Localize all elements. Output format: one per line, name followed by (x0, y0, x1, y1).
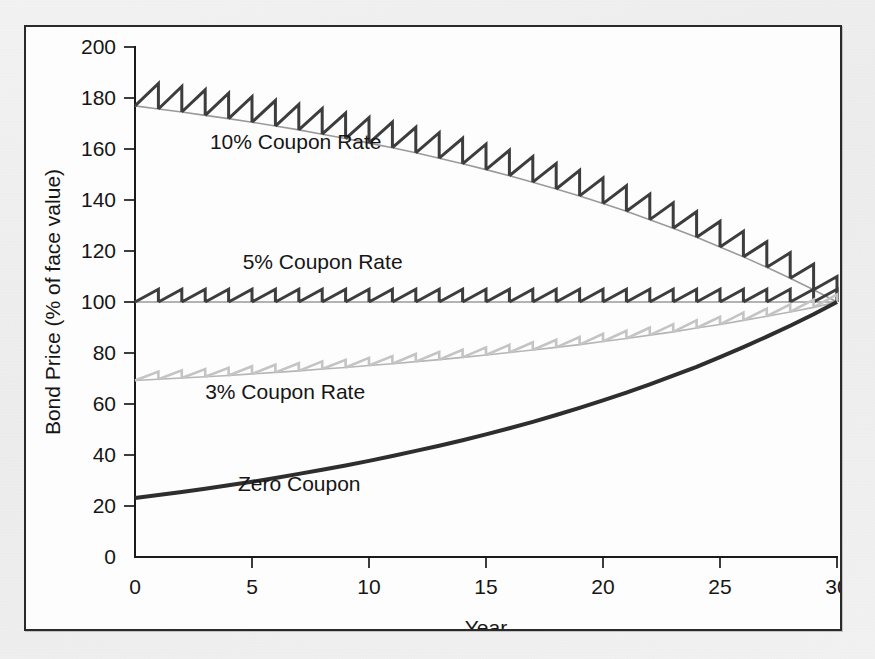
x-tick-label: 10 (357, 575, 380, 598)
x-tick-label: 20 (591, 575, 614, 598)
y-tick-label: 160 (81, 137, 116, 160)
y-tick-label: 140 (81, 188, 116, 211)
bond-price-chart: 020406080100120140160180200 051015202530… (26, 27, 840, 629)
series-trend-line (135, 302, 837, 381)
y-axis-ticks: 020406080100120140160180200 (81, 35, 135, 568)
y-tick-label: 60 (93, 392, 116, 415)
series-annotation-label: 5% Coupon Rate (243, 250, 403, 273)
series-annotation-label: 3% Coupon Rate (205, 380, 365, 403)
x-tick-label: 30 (825, 575, 840, 598)
figure-page: 020406080100120140160180200 051015202530… (0, 0, 875, 659)
series-annotation-label: 10% Coupon Rate (210, 130, 382, 153)
series-sawtooth-line (135, 294, 837, 380)
x-tick-label: 15 (474, 575, 497, 598)
series-annotations: 10% Coupon Rate5% Coupon Rate3% Coupon R… (205, 130, 402, 495)
series-3pct (135, 294, 837, 380)
x-axis-title: Year (465, 616, 507, 629)
y-tick-label: 120 (81, 239, 116, 262)
x-tick-label: 25 (708, 575, 731, 598)
y-tick-label: 100 (81, 290, 116, 313)
chart-surface: 020406080100120140160180200 051015202530… (26, 27, 840, 629)
x-tick-label: 5 (246, 575, 258, 598)
series-annotation-label: Zero Coupon (238, 472, 361, 495)
y-tick-label: 40 (93, 443, 116, 466)
y-tick-label: 80 (93, 341, 116, 364)
y-tick-label: 200 (81, 35, 116, 58)
y-tick-label: 20 (93, 494, 116, 517)
series-sawtooth-line (135, 289, 837, 302)
x-tick-label: 0 (129, 575, 141, 598)
y-tick-label: 180 (81, 86, 116, 109)
y-axis-title: Bond Price (% of face value) (41, 169, 64, 435)
x-axis-ticks: 051015202530 (129, 557, 840, 598)
series-sawtooth-line (135, 83, 837, 302)
series-5pct (135, 289, 837, 302)
y-tick-label: 0 (104, 545, 116, 568)
series-10pct (135, 83, 837, 302)
figure-frame: 020406080100120140160180200 051015202530… (24, 25, 842, 631)
